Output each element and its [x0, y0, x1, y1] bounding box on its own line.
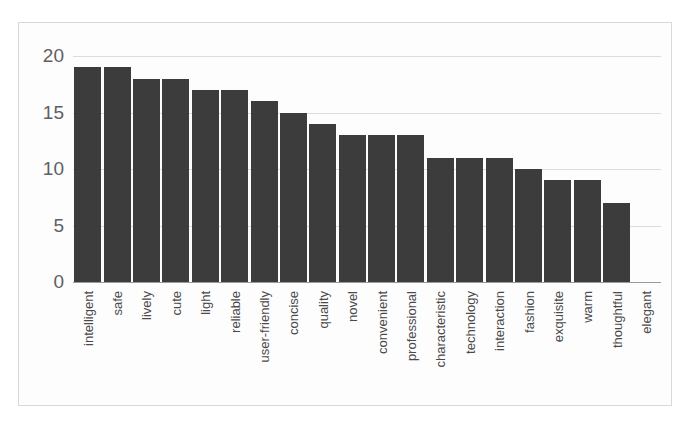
x-axis-label-characteristic: characteristic	[433, 291, 448, 368]
x-axis-label-convenient: convenient	[374, 291, 389, 354]
x-axis-label-slot: lively	[132, 287, 161, 417]
x-axis-label-thoughtful: thoughtful	[609, 291, 624, 348]
bar-rect	[104, 67, 131, 282]
x-axis-label-quality: quality	[315, 291, 330, 329]
bar-rect	[162, 79, 189, 282]
bar-rect	[221, 90, 248, 282]
x-axis-label-intelligent: intelligent	[80, 291, 95, 346]
bar-rect	[368, 135, 395, 282]
x-axis-label-elegant: elegant	[639, 291, 654, 334]
x-axis-label-light: light	[198, 291, 213, 315]
bar-user-friendly[interactable]	[249, 56, 278, 282]
x-axis-label-slot: characteristic	[426, 287, 455, 417]
x-axis-label-slot: technology	[455, 287, 484, 417]
bar-elegant[interactable]	[631, 56, 660, 282]
bar-series	[73, 56, 661, 282]
plot-area: 05101520	[73, 56, 661, 282]
bar-fashion[interactable]	[514, 56, 543, 282]
x-axis-label-technology: technology	[462, 291, 477, 354]
x-axis-label-slot: light	[191, 287, 220, 417]
bar-exquisite[interactable]	[543, 56, 572, 282]
bar-rect	[192, 90, 219, 282]
bar-rect	[339, 135, 366, 282]
x-axis-label-slot: fashion	[514, 287, 543, 417]
bar-rect	[251, 101, 278, 282]
x-axis-label-slot: interaction	[484, 287, 513, 417]
x-axis-label-slot: thoughtful	[602, 287, 631, 417]
y-axis-tick-20: 20	[43, 45, 64, 67]
x-axis-label-slot: exquisite	[543, 287, 572, 417]
x-axis-label-slot: warm	[573, 287, 602, 417]
bar-intelligent[interactable]	[73, 56, 102, 282]
bar-light[interactable]	[191, 56, 220, 282]
x-axis-label-slot: safe	[102, 287, 131, 417]
bar-concise[interactable]	[279, 56, 308, 282]
x-axis-label-slot: intelligent	[73, 287, 102, 417]
x-axis-label-user-friendly: user-friendly	[257, 291, 272, 363]
x-axis-label-slot: professional	[396, 287, 425, 417]
x-axis-label-interaction: interaction	[492, 291, 507, 351]
bar-technology[interactable]	[455, 56, 484, 282]
x-axis-label-cute: cute	[168, 291, 183, 316]
bar-thoughtful[interactable]	[602, 56, 631, 282]
bar-rect	[574, 180, 601, 282]
x-axis-label-concise: concise	[286, 291, 301, 335]
bar-rect	[603, 203, 630, 282]
bar-rect	[544, 180, 571, 282]
bar-lively[interactable]	[132, 56, 161, 282]
bar-convenient[interactable]	[367, 56, 396, 282]
gridline-0	[73, 282, 661, 283]
bar-rect	[280, 113, 307, 283]
x-axis-labels: intelligentsafelivelycutelightreliableus…	[73, 287, 661, 417]
bar-rect	[397, 135, 424, 282]
bar-rect	[515, 169, 542, 282]
x-axis-label-fashion: fashion	[521, 291, 536, 333]
x-axis-label-slot: elegant	[631, 287, 660, 417]
x-axis-label-professional: professional	[403, 291, 418, 361]
chart-frame: 05101520 intelligentsafelivelycutelightr…	[18, 22, 672, 406]
y-axis-tick-10: 10	[43, 158, 64, 180]
x-axis-label-slot: quality	[308, 287, 337, 417]
x-axis-label-slot: reliable	[220, 287, 249, 417]
y-axis-tick-0: 0	[53, 271, 64, 293]
bar-rect	[486, 158, 513, 282]
x-axis-label-slot: user-friendly	[249, 287, 278, 417]
bar-characteristic[interactable]	[426, 56, 455, 282]
bar-safe[interactable]	[102, 56, 131, 282]
bar-cute[interactable]	[161, 56, 190, 282]
x-axis-label-reliable: reliable	[227, 291, 242, 333]
bar-rect	[74, 67, 101, 282]
x-axis-label-slot: novel	[338, 287, 367, 417]
screenshot-root: 05101520 intelligentsafelivelycutelightr…	[0, 0, 692, 432]
bar-warm[interactable]	[573, 56, 602, 282]
bar-quality[interactable]	[308, 56, 337, 282]
bar-professional[interactable]	[396, 56, 425, 282]
x-axis-label-slot: concise	[279, 287, 308, 417]
bar-rect	[309, 124, 336, 282]
bar-interaction[interactable]	[484, 56, 513, 282]
y-axis-tick-5: 5	[53, 215, 64, 237]
x-axis-label-slot: convenient	[367, 287, 396, 417]
x-axis-label-exquisite: exquisite	[550, 291, 565, 342]
x-axis-label-lively: lively	[139, 291, 154, 320]
y-axis-tick-15: 15	[43, 102, 64, 124]
x-axis-label-novel: novel	[345, 291, 360, 322]
bar-rect	[456, 158, 483, 282]
bar-novel[interactable]	[338, 56, 367, 282]
x-axis-label-warm: warm	[580, 291, 595, 323]
x-axis-label-safe: safe	[110, 291, 125, 316]
bar-rect	[427, 158, 454, 282]
x-axis-label-slot: cute	[161, 287, 190, 417]
bar-reliable[interactable]	[220, 56, 249, 282]
bar-rect	[133, 79, 160, 282]
